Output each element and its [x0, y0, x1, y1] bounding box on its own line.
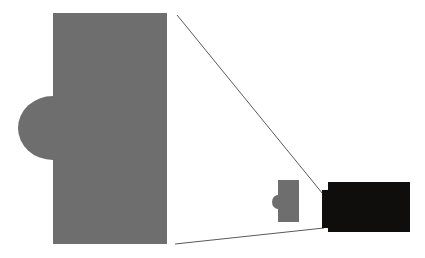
- main-gray-body: [53, 13, 167, 244]
- diagram-canvas: [0, 0, 425, 258]
- mini-gray-body: [278, 180, 299, 222]
- detail-black-shape-group: [322, 182, 410, 232]
- diagram-svg: [0, 0, 425, 258]
- detail-black-block: [328, 182, 410, 232]
